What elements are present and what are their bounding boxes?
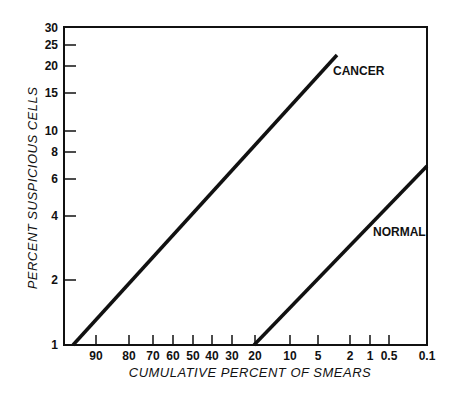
series-line-normal: [254, 166, 427, 345]
x-tick-label: 10: [283, 349, 297, 363]
y-tick-label: 6: [51, 172, 58, 186]
series-label-cancer: CANCER: [333, 64, 385, 78]
x-tick-label: 0.5: [381, 349, 398, 363]
x-axis-ticks: 9080706050403020105210.50.1: [89, 335, 435, 363]
y-tick-label: 15: [45, 86, 59, 100]
x-tick-label: 5: [315, 349, 322, 363]
x-tick-label: 0.1: [419, 349, 436, 363]
y-tick-label: 4: [51, 209, 58, 223]
x-tick-label: 80: [122, 349, 136, 363]
y-tick-label: 10: [45, 124, 59, 138]
y-axis-ticks: 302520151086421: [45, 21, 76, 352]
x-tick-label: 20: [248, 349, 262, 363]
series-lines: CANCERNORMAL: [73, 55, 427, 345]
y-tick-label: 20: [45, 59, 59, 73]
x-tick-label: 2: [347, 349, 354, 363]
y-tick-label: 2: [51, 273, 58, 287]
x-tick-label: 30: [225, 349, 239, 363]
chart-canvas: 302520151086421 9080706050403020105210.5…: [0, 0, 458, 403]
x-tick-label: 40: [205, 349, 219, 363]
x-tick-label: 1: [367, 349, 374, 363]
x-tick-label: 60: [166, 349, 180, 363]
y-tick-label: 25: [45, 38, 59, 52]
y-tick-label: 30: [45, 21, 59, 35]
x-tick-label: 90: [89, 349, 103, 363]
x-axis-title: CUMULATIVE PERCENT OF SMEARS: [129, 365, 372, 380]
series-label-normal: NORMAL: [373, 225, 426, 239]
x-tick-label: 70: [146, 349, 160, 363]
y-tick-label: 8: [51, 145, 58, 159]
y-tick-label: 1: [51, 338, 58, 352]
y-axis-title: PERCENT SUSPICIOUS CELLS: [25, 87, 40, 290]
x-tick-label: 50: [186, 349, 200, 363]
